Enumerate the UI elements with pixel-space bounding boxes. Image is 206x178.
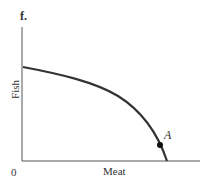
ppf-chart xyxy=(0,0,206,178)
x-axis-label: Meat xyxy=(103,166,126,177)
origin-label: 0 xyxy=(11,167,17,178)
point-a-label: A xyxy=(164,129,171,141)
y-axis-label: Fish xyxy=(10,80,21,99)
point-a-marker xyxy=(157,142,163,148)
panel-label: f. xyxy=(20,10,27,22)
ppf-curve xyxy=(23,67,167,161)
